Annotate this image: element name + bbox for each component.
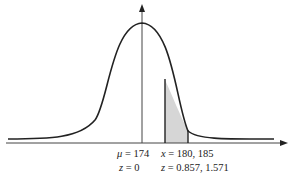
x-axis-arrow-icon (280, 140, 288, 146)
z-values-label: z = 0.857, 1.571 (161, 163, 229, 174)
x-values-label: x = 180, 185 (161, 149, 214, 160)
bell-curve (8, 23, 274, 139)
y-axis-arrow-icon (139, 4, 145, 12)
mean-label: μ = 174 (117, 149, 149, 160)
z-mean-label: z = 0 (119, 163, 140, 174)
